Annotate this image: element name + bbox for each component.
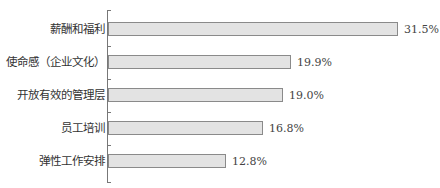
category-label: 薪酬和福利 xyxy=(50,22,105,37)
bar-row: 使命感（企业文化） 19.9% xyxy=(0,55,440,70)
axis-tick xyxy=(107,112,111,113)
axis-tick xyxy=(107,46,111,47)
bar-row: 薪酬和福利 31.5% xyxy=(0,22,440,37)
horizontal-bar-chart: 薪酬和福利 31.5% 使命感（企业文化） 19.9% 开放有效的管理层 19.… xyxy=(0,0,440,188)
axis-tick xyxy=(107,145,111,146)
category-label: 员工培训 xyxy=(61,121,105,136)
bar xyxy=(108,154,226,168)
bar-row: 开放有效的管理层 19.0% xyxy=(0,88,440,103)
value-label: 12.8% xyxy=(232,154,267,169)
bar xyxy=(108,88,283,102)
bar xyxy=(108,22,398,36)
value-label: 19.0% xyxy=(289,88,324,103)
bar xyxy=(108,55,291,69)
value-label: 19.9% xyxy=(297,55,332,70)
axis-tick xyxy=(107,10,111,11)
category-label: 使命感（企业文化） xyxy=(6,55,105,70)
value-label: 31.5% xyxy=(404,22,439,37)
category-label: 开放有效的管理层 xyxy=(17,88,105,103)
bar-row: 员工培训 16.8% xyxy=(0,121,440,136)
bar-row: 弹性工作安排 12.8% xyxy=(0,154,440,169)
axis-tick xyxy=(107,79,111,80)
category-label: 弹性工作安排 xyxy=(39,154,105,169)
value-label: 16.8% xyxy=(269,121,304,136)
axis-tick xyxy=(107,182,111,183)
bar xyxy=(108,121,263,135)
